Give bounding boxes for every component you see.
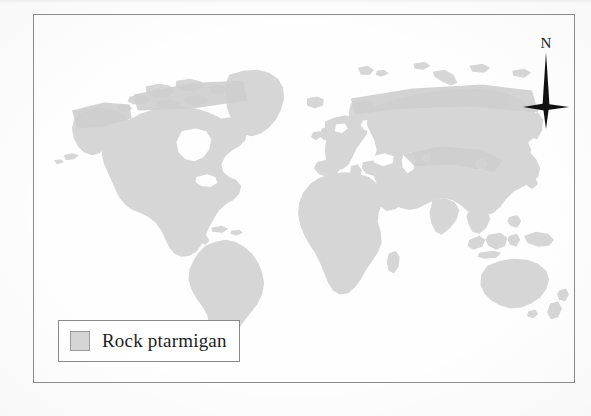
map-legend: Rock ptarmigan <box>58 320 240 362</box>
scan-edge-artifact <box>0 0 591 4</box>
legend-label-rock-ptarmigan: Rock ptarmigan <box>102 330 227 352</box>
figure-page: N Rock ptarmigan <box>0 0 591 416</box>
legend-swatch-rock-ptarmigan <box>70 331 90 351</box>
